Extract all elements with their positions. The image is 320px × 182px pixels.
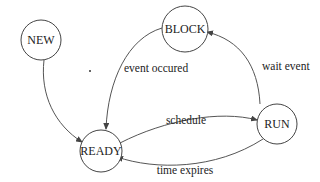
state-label-ready: READY — [80, 144, 122, 158]
state-label-block: BLOCK — [165, 22, 206, 36]
state-label-new: NEW — [27, 33, 55, 47]
stray-dot — [89, 70, 91, 72]
state-ready: READY — [80, 130, 122, 172]
edge-block-to-ready — [106, 28, 162, 129]
state-block: BLOCK — [162, 6, 208, 52]
label-time-expires: time expires — [157, 164, 214, 177]
label-event-occured: event occured — [124, 62, 188, 74]
state-label-run: RUN — [264, 117, 290, 131]
edge-run-to-ready — [117, 139, 263, 165]
state-run: RUN — [257, 104, 297, 144]
edge-run-to-block — [207, 32, 260, 104]
state-diagram: NEW BLOCK READY RUN event occured schedu… — [0, 0, 320, 182]
state-new: NEW — [21, 20, 61, 60]
label-schedule: schedule — [166, 114, 206, 126]
label-wait-event: wait event — [262, 60, 310, 72]
edge-new-to-ready — [43, 60, 82, 142]
